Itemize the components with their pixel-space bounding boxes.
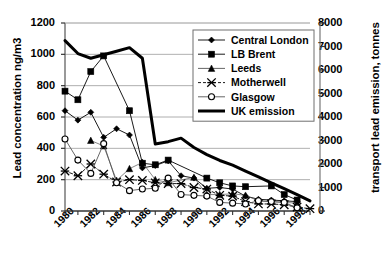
series-central-london — [62, 108, 300, 205]
legend-label: Leeds — [231, 62, 262, 74]
legend-label: Glasgow — [231, 91, 276, 103]
legend-label: Motherwell — [231, 76, 286, 88]
chart-legend: Central LondonLB BrentLeedsMotherwellGla… — [193, 30, 314, 121]
plot-area: Central LondonLB BrentLeedsMotherwellGla… — [0, 0, 383, 262]
legend-label: LB Brent — [231, 48, 276, 60]
lead-concentration-chart: Lead concentration ng/m3 transport lead … — [0, 0, 383, 262]
legend-label: Central London — [231, 34, 309, 46]
legend-label: UK emission — [231, 105, 295, 117]
